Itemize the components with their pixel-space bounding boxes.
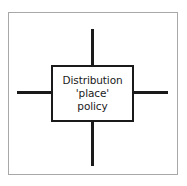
center-node-box: Distribution 'place' policy <box>51 65 134 122</box>
connector-line-left <box>17 91 52 94</box>
center-node-line-3: policy <box>77 100 107 113</box>
center-node-line-1: Distribution <box>62 74 122 87</box>
connector-line-right <box>133 91 168 94</box>
center-node-line-2: 'place' <box>76 87 109 100</box>
connector-line-bottom <box>91 120 94 166</box>
connector-line-top <box>91 29 94 66</box>
diagram-canvas: Distribution 'place' policy <box>0 0 187 186</box>
